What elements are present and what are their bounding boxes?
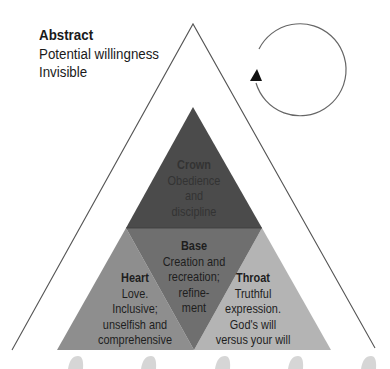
crown-title: Crown xyxy=(151,157,237,173)
heart-label: Heart Love. Inclusive; unselfish and com… xyxy=(89,270,181,348)
crown-label: Crown Obedience and discipline xyxy=(151,157,237,219)
bottom-blobs xyxy=(68,356,376,369)
throat-description: Truthful expression. God's will versus y… xyxy=(207,286,299,348)
crown-description: Obedience and discipline xyxy=(151,173,237,220)
abstract-line-1: Potential willingness xyxy=(39,45,159,64)
throat-title: Throat xyxy=(207,270,299,286)
base-title: Base xyxy=(151,238,237,254)
blob xyxy=(288,356,303,369)
abstract-line-2: Invisible xyxy=(39,63,159,82)
heart-title: Heart xyxy=(89,270,181,286)
blob xyxy=(68,356,83,369)
blob xyxy=(361,356,376,369)
throat-label: Throat Truthful expression. God's will v… xyxy=(207,270,299,348)
circular-arrow-icon xyxy=(250,24,346,116)
abstract-title: Abstract xyxy=(39,26,159,45)
heart-description: Love. Inclusive; unselfish and comprehen… xyxy=(89,286,181,348)
abstract-label: Abstract Potential willingness Invisible xyxy=(39,26,159,82)
blob xyxy=(141,356,156,369)
blob xyxy=(215,356,230,369)
